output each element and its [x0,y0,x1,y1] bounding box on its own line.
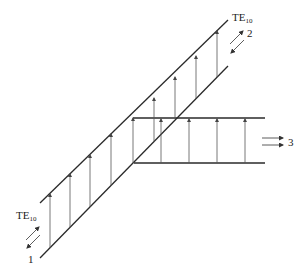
mode-label-top: TE10 [232,11,253,25]
port-2-label: 2 [247,27,253,39]
port-1-label: 1 [28,253,34,265]
port-3-arrows [262,138,283,145]
waveguide-diagram: TE10 TE10 1 2 3 [0,0,302,279]
diagonal-field-lines [50,31,217,248]
diagonal-lower-wall [40,66,228,258]
mode-label-bottom: TE10 [16,209,37,223]
branch-field-lines [161,119,245,163]
port-3-label: 3 [288,136,294,148]
port-2-arrows [230,31,244,53]
diagonal-upper-wall [40,20,228,203]
port-1-arrows [26,227,40,248]
